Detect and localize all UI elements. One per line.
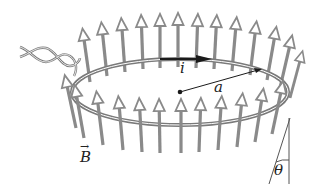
angle-label: θ (274, 163, 283, 178)
current-direction-arrow (160, 55, 212, 63)
field-label: B (80, 150, 91, 165)
field-arrows-back (77, 13, 307, 99)
current-loop-diagram (0, 0, 315, 192)
twisted-lead-wires (20, 47, 80, 76)
radius-label: a (214, 80, 223, 95)
current-label: i (180, 61, 185, 76)
